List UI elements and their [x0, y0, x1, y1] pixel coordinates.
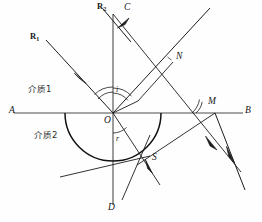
right-angle-tick-N [168, 57, 172, 60]
medium-label-lower: 介质2 [34, 131, 57, 140]
angle-label-incidence: i [116, 86, 118, 94]
ray-label-R2: R2 [97, 2, 106, 11]
point-label-B: B [245, 106, 251, 116]
angle-arc-incidence-inner [98, 92, 113, 99]
optics-diagram: R1 R2 C N M B A O S D i r 介质1 介质2 [0, 0, 262, 222]
ray-NM-arrow [206, 136, 218, 150]
medium-label-upper: 介质1 [28, 85, 51, 94]
ray-through-N-to-M [113, 14, 241, 172]
point-label-A: A [9, 106, 15, 116]
optics-diagram-svg [0, 0, 262, 222]
angle-arc-incidence [95, 87, 114, 95]
point-label-C: C [124, 3, 130, 13]
ray-M-down-arrow [227, 147, 235, 164]
point-label-N: N [176, 52, 182, 62]
point-label-M: M [208, 97, 216, 107]
reflected-ray-ON [113, 8, 210, 113]
ray-from-M-down [215, 113, 245, 190]
point-label-O: O [104, 116, 111, 126]
incident-ray-arrow [74, 73, 86, 83]
ray-R2-segment [103, 9, 131, 42]
ray-S-down-left [122, 135, 150, 200]
incident-ray-R1 [46, 40, 113, 113]
angle-label-refraction: r [116, 135, 119, 143]
segment-S-lower [113, 101, 138, 113]
point-label-D: D [108, 203, 115, 213]
point-label-S: S [152, 153, 157, 163]
ray-label-R1: R1 [30, 32, 39, 41]
ray-extension-OS [113, 113, 160, 185]
